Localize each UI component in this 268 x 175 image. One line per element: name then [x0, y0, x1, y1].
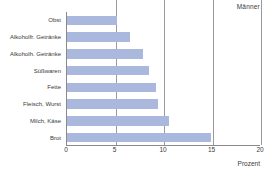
gridline: [261, 0, 262, 145]
bar: [67, 99, 158, 108]
bar: [67, 83, 156, 92]
x-tick-label: 0: [64, 147, 68, 154]
category-label: Fleisch, Wurst: [23, 101, 61, 107]
bar-row: [67, 99, 260, 108]
bar-chart-figure: Männer ObstAlkoholfr. GetränkeAlkoholh. …: [0, 0, 268, 175]
bar-row: [67, 16, 260, 25]
x-tick-label: 15: [208, 147, 215, 154]
x-axis-tick-labels: 05101520: [66, 147, 260, 159]
bar-row: [67, 133, 260, 142]
bar-row: [67, 116, 260, 125]
bar: [67, 66, 149, 75]
bar-row: [67, 32, 260, 41]
x-tick-label: 5: [113, 147, 117, 154]
x-axis-title: Prozent: [238, 160, 260, 167]
bar: [67, 32, 130, 41]
category-label: Obst: [48, 17, 61, 23]
bar: [67, 16, 117, 25]
bar: [67, 116, 169, 125]
category-label: Milch, Käse: [30, 118, 61, 124]
plot-area: [66, 12, 260, 146]
category-label: Fette: [47, 84, 61, 90]
x-tick-label: 10: [159, 147, 166, 154]
chart-title: Männer: [237, 3, 260, 10]
category-label: Alkoholh. Getränke: [10, 51, 61, 57]
bar-series: [67, 12, 260, 145]
category-label: Süßwaren: [34, 68, 61, 74]
bar-row: [67, 49, 260, 58]
bar: [67, 133, 211, 142]
x-tick-label: 20: [256, 147, 263, 154]
category-label: Brot: [50, 135, 61, 141]
bar-row: [67, 66, 260, 75]
category-axis-labels: ObstAlkoholfr. GetränkeAlkoholh. Getränk…: [0, 12, 64, 146]
bar-row: [67, 83, 260, 92]
category-label: Alkoholfr. Getränke: [10, 34, 61, 40]
bar: [67, 49, 143, 58]
